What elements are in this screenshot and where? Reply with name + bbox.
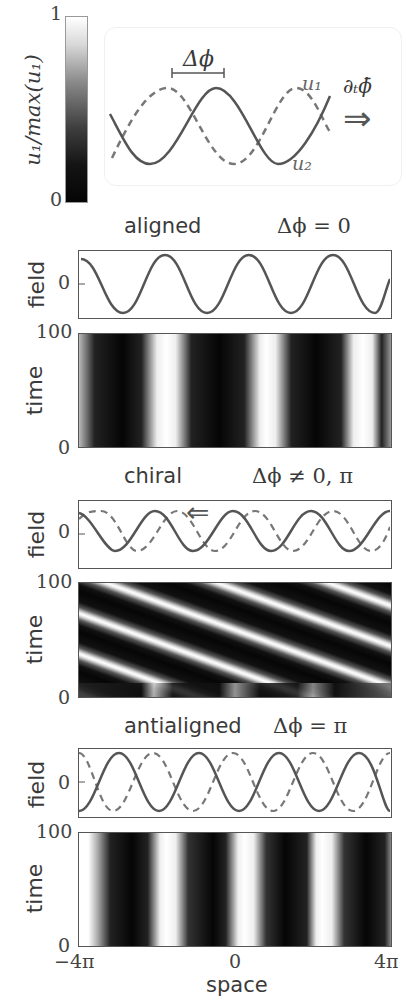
aligned-time-tick-0: 0 xyxy=(58,436,70,458)
aligned-field-tick-0: 0 xyxy=(58,271,70,293)
chiral-time-tick-0: 0 xyxy=(58,686,70,708)
aligned-time-tick-100: 100 xyxy=(36,320,72,342)
u2-label: u₂ xyxy=(292,152,312,174)
delta-phi-label: Δϕ xyxy=(183,46,214,71)
chiral-title: chiral xyxy=(124,464,182,488)
antialigned-field-ylabel: field xyxy=(24,755,49,815)
drift-arrow-icon: ⇒ xyxy=(343,98,372,138)
antialigned-field-tick-0: 0 xyxy=(58,771,70,793)
colorbar-tick-top: 1 xyxy=(50,2,62,24)
aligned-field-ylabel: field xyxy=(24,255,49,315)
chiral-field-tick-0: 0 xyxy=(58,520,70,542)
antialigned-field-plot xyxy=(78,748,392,818)
aligned-heatmap xyxy=(78,333,392,448)
xaxis-tick-left: −4π xyxy=(54,950,95,972)
aligned-field-plot xyxy=(78,250,392,319)
u1-label: u₁ xyxy=(302,72,322,94)
xaxis-label: space xyxy=(206,973,268,997)
chiral-field-plot xyxy=(78,500,392,569)
chiral-time-ylabel: time xyxy=(22,610,47,670)
aligned-condition: Δϕ = 0 xyxy=(277,214,351,238)
antialigned-title: antialigned xyxy=(124,714,242,738)
chiral-travel-arrow-icon: ⇐ xyxy=(186,496,209,529)
chiral-heatmap xyxy=(78,582,392,698)
colorbar-label: u₁/max(u₁) xyxy=(21,20,45,200)
colorbar xyxy=(65,16,88,203)
antialigned-time-ylabel: time xyxy=(22,859,47,919)
xaxis-tick-right: 4π xyxy=(374,950,399,972)
xaxis-tick-center: 0 xyxy=(229,950,241,972)
chiral-condition: Δϕ ≠ 0, π xyxy=(252,464,353,488)
aligned-title: aligned xyxy=(124,214,201,238)
colorbar-tick-bottom: 0 xyxy=(50,188,62,210)
chiral-field-ylabel: field xyxy=(24,505,49,565)
chiral-time-tick-100: 100 xyxy=(36,570,72,592)
antialigned-time-tick-100: 100 xyxy=(36,820,72,842)
drift-label: ∂ₜϕ̄ xyxy=(343,74,372,98)
aligned-time-ylabel: time xyxy=(22,361,47,421)
antialigned-condition: Δϕ = π xyxy=(273,714,347,738)
antialigned-heatmap xyxy=(78,832,392,947)
